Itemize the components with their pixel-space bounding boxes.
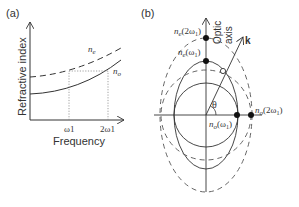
- ne-omega1-label: ne(ω1): [178, 47, 201, 59]
- ne-curve: [30, 48, 121, 77]
- panel-b: (b) Optic axis k θ ne(2: [141, 7, 282, 192]
- optic-label-2: axis: [223, 26, 234, 44]
- ne-omega1-dot: [203, 58, 209, 64]
- theta-label: θ: [212, 99, 217, 110]
- x-axis-label: Frequency: [53, 135, 105, 147]
- figure-svg: (a) Refractive index ne no ω1 2ω1 Freque…: [0, 0, 299, 207]
- no-2omega1-label: no(2ω1): [255, 105, 282, 117]
- no-2omega1-dot: [248, 112, 254, 118]
- ne-2omega1-label: ne(2ω1): [174, 26, 201, 38]
- ne-label: ne: [88, 44, 96, 56]
- diagram-canvas: (a) Refractive index ne no ω1 2ω1 Freque…: [0, 0, 299, 207]
- panel-b-label: (b): [141, 7, 154, 19]
- k-label: k: [245, 35, 251, 46]
- no-curve: [30, 60, 121, 94]
- xtick-omega1: ω1: [64, 124, 74, 134]
- ne-2omega1-dot: [203, 35, 209, 41]
- optic-label-1: Optic: [212, 21, 223, 44]
- phase-match-open-marker: [220, 68, 225, 73]
- y-axis-label: Refractive index: [16, 37, 28, 116]
- panel-a-label: (a): [6, 7, 19, 19]
- panel-a: (a) Refractive index ne no ω1 2ω1 Freque…: [6, 7, 124, 147]
- no-omega1-dot: [234, 112, 240, 118]
- no-omega1-label: no(ω1): [209, 119, 232, 131]
- xtick-two-omega1: 2ω1: [100, 124, 115, 134]
- no-label: no: [113, 66, 122, 78]
